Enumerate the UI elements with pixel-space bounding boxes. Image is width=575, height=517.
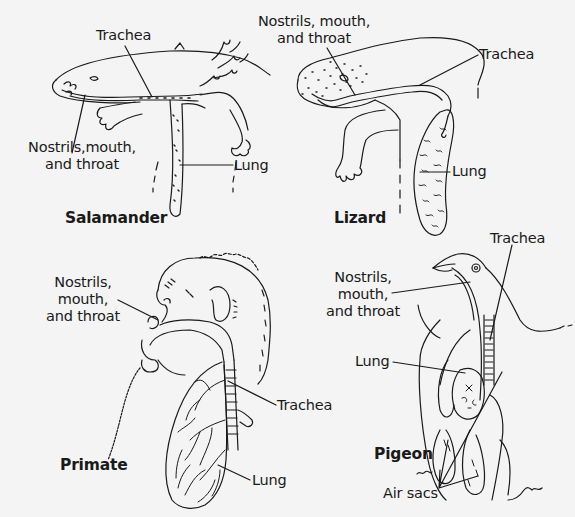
pigeon-nostrils-label: Nostrils, mouth, and throat: [320, 269, 406, 320]
primate-title: Primate: [60, 457, 127, 474]
primate-lung-label: Lung: [252, 472, 287, 489]
salamander-illustration: [53, 40, 270, 216]
lizard-title: Lizard: [334, 210, 386, 227]
lizard-lung-label: Lung: [452, 163, 487, 180]
pigeon-air-sacs-label: Air sacs: [383, 485, 438, 502]
primate-illustration: [108, 253, 276, 508]
primate-nostrils-label: Nostrils, mouth, and throat: [40, 274, 126, 325]
salamander-trachea-label: Trachea: [96, 27, 151, 44]
lizard-trachea-label: Trachea: [479, 46, 534, 63]
salamander-lung-label: Lung: [234, 157, 269, 174]
salamander-title: Salamander: [65, 210, 167, 227]
pigeon-lung-label: Lung: [355, 353, 390, 370]
primate-trachea-label: Trachea: [277, 397, 332, 414]
salamander-nostrils-label: Nostrils,mouth, and throat: [12, 139, 152, 173]
lizard-nostrils-label: Nostrils, mouth, and throat: [234, 13, 394, 47]
pigeon-trachea-label: Trachea: [490, 230, 545, 247]
respiratory-systems-diagram: Trachea Nostrils,mouth, and throat Lung …: [0, 0, 575, 517]
pigeon-title: Pigeon: [374, 446, 433, 463]
lizard-illustration: [297, 38, 484, 236]
line-art: [0, 0, 575, 517]
